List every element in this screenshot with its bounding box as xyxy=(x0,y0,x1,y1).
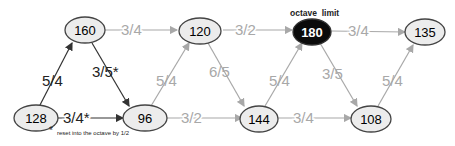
edge-96-144: 3/2 xyxy=(167,109,242,126)
edge-108-135: 5/4 xyxy=(378,45,413,106)
svg-text:120: 120 xyxy=(189,24,211,39)
svg-text:3/5*: 3/5* xyxy=(92,63,119,80)
svg-text:3/2: 3/2 xyxy=(181,109,202,126)
node-96: 96 xyxy=(123,105,167,131)
octave-limit-label: octave limit xyxy=(290,8,339,18)
svg-text:3/4: 3/4 xyxy=(293,109,314,126)
node-160: 160 xyxy=(65,17,105,43)
svg-text:3/4*: 3/4* xyxy=(63,109,90,126)
footnote-marker: * xyxy=(49,125,53,136)
edge-180-108: 3/5 xyxy=(320,43,357,106)
svg-text:108: 108 xyxy=(360,112,382,127)
edge-160-120: 3/4 xyxy=(104,21,177,38)
tone-network-diagram: 5/4 3/5* 3/4* 3/4 5/4 3/2 3/2 6/5 5/4 3/… xyxy=(0,0,455,146)
svg-text:5/4: 5/4 xyxy=(382,72,403,89)
svg-text:5/4: 5/4 xyxy=(269,72,290,89)
node-144: 144 xyxy=(240,106,278,132)
svg-text:180: 180 xyxy=(301,25,323,40)
svg-text:3/4: 3/4 xyxy=(348,22,369,39)
svg-text:5/4: 5/4 xyxy=(156,72,177,89)
edge-120-180: 3/2 xyxy=(223,21,292,38)
node-180-octave-limit: 180 xyxy=(293,19,331,45)
svg-text:5/4: 5/4 xyxy=(42,72,63,89)
edge-120-144: 6/5 xyxy=(208,43,244,106)
edge-128-160: 5/4 xyxy=(40,43,72,105)
edge-128-96: 3/4* xyxy=(50,109,123,126)
svg-text:160: 160 xyxy=(74,23,96,38)
edge-160-96: 3/5* xyxy=(92,43,129,106)
edge-180-135: 3/4 xyxy=(331,22,405,39)
node-135: 135 xyxy=(405,19,445,45)
footnote-text: reset into the octave by 1/2 xyxy=(57,130,130,136)
svg-text:6/5: 6/5 xyxy=(209,63,230,80)
node-108: 108 xyxy=(351,106,391,132)
svg-text:3/4: 3/4 xyxy=(121,21,142,38)
edge-144-108: 3/4 xyxy=(278,109,351,126)
svg-text:96: 96 xyxy=(138,111,152,126)
svg-text:135: 135 xyxy=(414,25,436,40)
node-120: 120 xyxy=(179,18,221,44)
svg-text:128: 128 xyxy=(25,111,47,126)
svg-text:3/5: 3/5 xyxy=(322,65,343,82)
svg-text:144: 144 xyxy=(248,112,270,127)
svg-text:3/2: 3/2 xyxy=(235,21,256,38)
edge-96-120: 5/4 xyxy=(151,43,189,106)
edge-144-180: 5/4 xyxy=(265,43,302,106)
